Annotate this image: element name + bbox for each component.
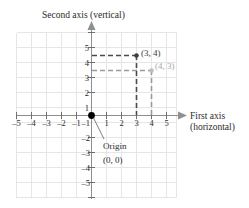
y-tick-label--3: –3 <box>76 148 90 158</box>
y-tick-label--5: –5 <box>76 178 90 188</box>
point-marker-4-3[interactable] <box>149 68 154 73</box>
x-tick-label--4: –4 <box>25 118 38 128</box>
x-tick-label-2: 2 <box>116 118 127 128</box>
horizontal-axis-title-line1: First axis <box>190 111 235 122</box>
x-tick-label-5: 5 <box>161 118 172 128</box>
y-tick-label--4: –4 <box>76 163 90 173</box>
vertical-axis-title: Second axis (vertical) <box>42 10 125 21</box>
x-tick-label--3: –3 <box>40 118 53 128</box>
guides-point-3-4 <box>92 55 137 115</box>
x-tick-label-3: 3 <box>131 118 142 128</box>
y-tick-label--1: –1 <box>76 118 90 128</box>
x-tick-label-1: 1 <box>101 118 112 128</box>
x-tick-label--2: –2 <box>55 118 68 128</box>
origin-label: Origin <box>103 141 127 151</box>
origin-coordinates-label: (0, 0) <box>103 155 123 165</box>
x-tick-label-4: 4 <box>146 118 157 128</box>
y-tick-label-5: 5 <box>78 43 89 53</box>
x-tick-label--5: –5 <box>10 118 23 128</box>
y-axis-arrowhead <box>88 21 96 30</box>
horizontal-axis-title-line2: (horizontal) <box>190 122 235 133</box>
point-label-4-3: (4, 3) <box>155 61 175 71</box>
x-axis-arrowhead <box>178 112 187 120</box>
coordinate-plane-figure: Second axis (vertical) First axis (horiz… <box>0 0 249 208</box>
horizontal-axis-title: First axis (horizontal) <box>190 111 235 133</box>
y-tick-label-2: 2 <box>78 88 89 98</box>
point-label-3-4: (3, 4) <box>141 48 161 58</box>
y-tick-label-3: 3 <box>78 73 89 83</box>
plot-canvas <box>0 0 249 208</box>
y-tick-label-4: 4 <box>78 58 89 68</box>
y-tick-label-1: 1 <box>78 103 89 113</box>
point-marker-3-4[interactable] <box>134 53 139 58</box>
y-tick-label--2: –2 <box>76 133 90 143</box>
